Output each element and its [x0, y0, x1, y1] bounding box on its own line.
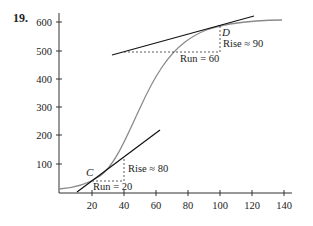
y-tick-label: 600	[36, 17, 52, 28]
chart-svg: 19. 100 200 300 400 500 600	[0, 0, 313, 226]
problem-number: 19.	[13, 11, 28, 25]
y-tick-label: 100	[36, 159, 52, 170]
x-tick-label: 20	[87, 200, 98, 211]
y-tick-label: 200	[36, 130, 52, 141]
run-c-label: Run = 20	[93, 181, 132, 192]
figure: 19. 100 200 300 400 500 600	[0, 0, 313, 226]
y-tick-label: 500	[36, 46, 52, 57]
y-tick-label: 300	[36, 102, 52, 113]
point-d-label: D	[221, 26, 230, 38]
run-d-label: Run = 60	[180, 53, 219, 64]
x-tick-label: 120	[244, 200, 260, 211]
rise-d-label: Rise ≈ 90	[223, 38, 263, 49]
y-tick-labels: 100 200 300 400 500 600	[36, 17, 52, 170]
tangent-line-d	[112, 16, 254, 55]
x-tick-label: 40	[119, 200, 130, 211]
x-tick-label: 100	[212, 200, 228, 211]
rise-c-label: Rise ≈ 80	[128, 163, 168, 174]
x-tick-label: 140	[276, 200, 292, 211]
y-tick-label: 400	[36, 74, 52, 85]
point-c-label: C	[86, 166, 94, 178]
x-tick-label: 80	[183, 200, 194, 211]
x-tick-label: 60	[151, 200, 162, 211]
x-tick-labels: 20 40 60 80 100 120 140	[87, 200, 292, 211]
